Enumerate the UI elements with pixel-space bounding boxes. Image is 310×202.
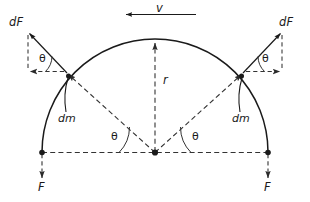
center-point [152,149,158,155]
theta-arc-force-left [46,57,53,72]
physics-diagram: v r dF dF θ θ θ θ dm dm F F [0,0,310,202]
theta-arc-center-left [119,127,130,153]
theta-center-right-label: θ [192,131,199,142]
dm-left-label: dm [58,113,76,124]
theta-center-left-label: θ [111,131,118,142]
F-right-vector [265,150,271,178]
dF-left-vector [30,34,68,74]
dm-right-label: dm [232,113,250,124]
F-left-vector [39,150,45,178]
theta-arc-center-right [180,127,191,153]
theta-force-right-label: θ [262,53,269,64]
radius-label: r [163,75,168,87]
diagram-canvas [0,0,310,202]
dF-right-label: dF [279,17,293,29]
dm-right-leader [239,78,242,112]
theta-force-left-label: θ [39,53,46,64]
velocity-label: v [156,3,163,15]
F-right-label: F [264,182,271,194]
F-left-label: F [38,182,45,194]
dF-left-label: dF [9,17,23,29]
dm-right-point [239,74,244,79]
dF-left-components [28,35,64,72]
dm-left-point [66,74,71,79]
